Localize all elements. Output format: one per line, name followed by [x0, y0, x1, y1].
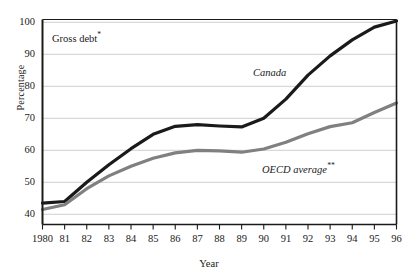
y-axis-tick-label: 40 [5, 209, 35, 220]
series-line-canada [43, 21, 397, 203]
axis-frame [43, 20, 397, 225]
gridlines [43, 22, 397, 214]
annotation-gross-debt-text: Gross debt [52, 33, 97, 44]
y-axis-tick-label: 90 [5, 49, 35, 60]
y-axis-tick-label: 100 [5, 17, 35, 28]
y-axis-tick-label: 80 [5, 81, 35, 92]
y-axis-tick-label: 60 [5, 145, 35, 156]
annotation-oecd-marker: ** [327, 161, 335, 170]
annotation-gross-debt: Gross debt* [52, 31, 101, 44]
x-axis-title: Year [0, 258, 418, 269]
annotation-canada-text: Canada [253, 67, 286, 78]
x-axis-tick-label: 96 [382, 234, 412, 245]
annotation-oecd-text: OECD average [262, 164, 327, 175]
y-axis-tick-label: 70 [5, 113, 35, 124]
series-line-oecd-average [43, 103, 397, 210]
gross-debt-line-chart: Percentage Year 405060708090100 19808182… [0, 0, 418, 278]
annotation-oecd: OECD average** [262, 162, 335, 175]
annotation-canada: Canada [253, 68, 286, 79]
y-axis-tick-label: 50 [5, 177, 35, 188]
data-series-group [43, 21, 397, 209]
annotation-gross-debt-marker: * [97, 30, 101, 39]
